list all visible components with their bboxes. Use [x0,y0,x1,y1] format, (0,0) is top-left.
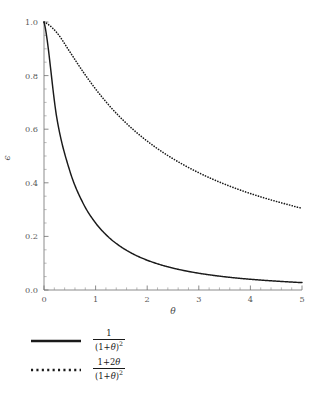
x-axis-ticks [44,286,302,291]
x-axis-tick-labels: 012345 [41,294,304,304]
num-pre-dotted: 1+2 [98,357,116,367]
x-tick-label: 5 [299,294,304,304]
legend-item-dotted: 1+2θ (1+θ)2 [30,355,200,384]
y-tick-label: 0.8 [25,71,38,81]
den-exponent-dotted: 2 [119,369,123,376]
plot-svg: 012345 0.00.20.40.60.81.0 θ ϵ [0,0,323,320]
y-tick-label: 0.2 [25,231,38,241]
series-line-solid [44,22,302,283]
y-tick-label: 1.0 [25,17,38,27]
x-tick-label: 0 [41,294,46,304]
series-line-dotted [44,22,302,208]
y-axis-ticks [44,22,49,290]
figure-root: 012345 0.00.20.40.60.81.0 θ ϵ 1 (1+θ)2 [0,0,323,403]
y-axis-tick-labels: 0.00.20.40.60.81.0 [25,17,38,295]
den-open-dotted: (1+ [95,371,111,381]
legend-item-solid: 1 (1+θ)2 [30,326,200,355]
legend-formula-solid: 1 (1+θ)2 [93,329,125,351]
den-exponent-solid: 2 [119,340,123,347]
x-tick-label: 3 [196,294,201,304]
legend-numerator-dotted: 1+2θ [96,358,123,368]
legend-swatch-dotted-icon [30,364,82,376]
x-tick-label: 2 [145,294,150,304]
y-tick-label: 0.0 [25,285,38,295]
den-open-solid: (1+ [95,342,111,352]
y-tick-label: 0.4 [25,178,38,188]
x-tick-label: 4 [248,294,253,304]
legend-formula-dotted: 1+2θ (1+θ)2 [93,358,125,380]
num-var-dotted: θ [115,357,120,367]
x-tick-label: 1 [93,294,98,304]
legend-numerator-solid: 1 [104,329,113,339]
plot-area: 012345 0.00.20.40.60.81.0 θ ϵ [0,0,323,320]
legend-swatch-solid-icon [30,335,82,347]
legend-denominator-solid: (1+θ)2 [93,340,125,352]
y-tick-label: 0.6 [25,124,38,134]
x-axis-title: θ [170,306,176,316]
legend: 1 (1+θ)2 1+2θ (1+θ)2 [30,326,200,384]
legend-denominator-dotted: (1+θ)2 [93,369,125,381]
y-axis-title: ϵ [2,155,12,160]
